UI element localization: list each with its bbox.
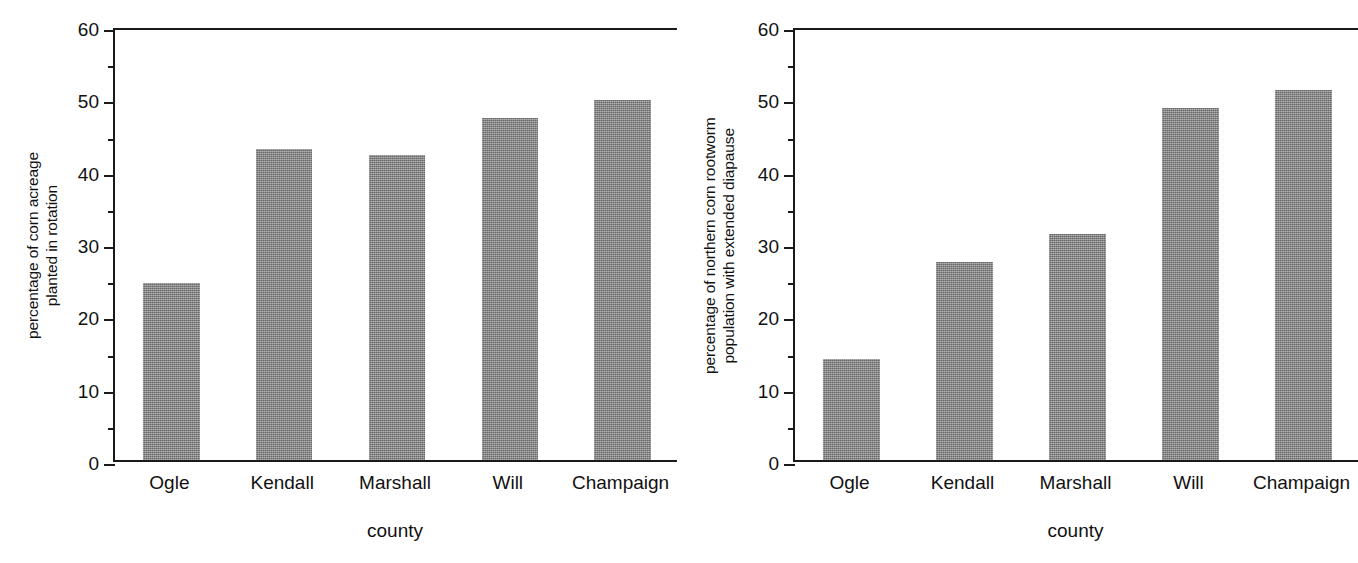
- y-axis-tick-label: 20: [78, 308, 99, 330]
- y-axis-title-left-line2: planted in rotation: [42, 152, 61, 339]
- y-axis-tick-label: 10: [758, 381, 779, 403]
- bar: [1162, 108, 1219, 460]
- y-axis-tick: [784, 175, 795, 177]
- y-axis-title-left-line1: percentage of corn acreage: [23, 152, 42, 339]
- y-axis-tick: [104, 247, 115, 249]
- y-axis-minor-tick: [108, 283, 115, 285]
- y-axis-tick-label: 10: [78, 381, 99, 403]
- y-axis-tick: [104, 464, 115, 466]
- y-axis-tick-label: 30: [78, 236, 99, 258]
- y-axis-minor-tick: [108, 428, 115, 430]
- bar: [482, 118, 538, 460]
- bar: [1049, 234, 1106, 460]
- y-axis-tick: [784, 247, 795, 249]
- chart-panel-right: percentage of northern corn rootworm pop…: [679, 0, 1358, 563]
- y-axis-minor-tick: [788, 139, 795, 141]
- y-axis-title-left: percentage of corn acreage planted in ro…: [23, 152, 61, 339]
- y-axis-tick-label: 50: [758, 91, 779, 113]
- y-axis-tick: [784, 392, 795, 394]
- bar: [936, 262, 993, 460]
- y-axis-tick: [784, 30, 795, 32]
- y-axis-tick-label: 40: [758, 164, 779, 186]
- y-axis-tick-label: 0: [768, 453, 779, 475]
- x-axis-tick-label: Ogle: [149, 472, 189, 494]
- x-axis-tick-label: Marshall: [1040, 472, 1112, 494]
- x-axis-tick-label: Kendall: [250, 472, 313, 494]
- y-axis-tick: [784, 464, 795, 466]
- plot-area-left: 0102030405060: [113, 28, 677, 462]
- y-axis-tick: [104, 175, 115, 177]
- y-axis-tick: [104, 392, 115, 394]
- y-axis-tick-label: 50: [78, 91, 99, 113]
- plot-area-right: 0102030405060: [793, 28, 1358, 462]
- y-axis-tick-label: 30: [758, 236, 779, 258]
- y-axis-minor-tick: [108, 139, 115, 141]
- y-axis-tick-label: 40: [78, 164, 99, 186]
- y-axis-minor-tick: [788, 356, 795, 358]
- y-axis-minor-tick: [108, 66, 115, 68]
- y-axis-minor-tick: [108, 356, 115, 358]
- x-axis-tick-label: Will: [1173, 472, 1204, 494]
- y-axis-tick-label: 20: [758, 308, 779, 330]
- bar: [823, 359, 880, 460]
- x-axis-tick-label: Champaign: [1253, 472, 1350, 494]
- y-axis-tick: [784, 102, 795, 104]
- x-axis-tick-label: Kendall: [931, 472, 994, 494]
- x-axis-tick-label: Champaign: [572, 472, 669, 494]
- y-axis-minor-tick: [788, 211, 795, 213]
- y-axis-tick-label: 60: [758, 19, 779, 41]
- y-axis-tick: [104, 30, 115, 32]
- y-axis-tick-label: 0: [88, 453, 99, 475]
- y-axis-tick: [104, 319, 115, 321]
- y-axis-minor-tick: [108, 211, 115, 213]
- plot-inner-right: 0102030405060: [795, 30, 1358, 460]
- plot-inner-left: 0102030405060: [115, 30, 677, 460]
- y-axis-minor-tick: [788, 283, 795, 285]
- y-axis-title-right: percentage of northern corn rootworm pop…: [700, 117, 738, 374]
- x-axis-tick-label: Will: [492, 472, 523, 494]
- bar: [1275, 90, 1332, 460]
- x-axis-title-left: county: [367, 520, 423, 542]
- bar: [256, 149, 312, 460]
- bar: [143, 283, 199, 460]
- y-axis-tick: [784, 319, 795, 321]
- bar: [594, 100, 650, 460]
- y-axis-tick-label: 60: [78, 19, 99, 41]
- bar: [369, 155, 425, 460]
- figure: percentage of corn acreage planted in ro…: [0, 0, 1358, 563]
- y-axis-title-right-line1: percentage of northern corn rootworm: [700, 117, 719, 374]
- chart-panel-left: percentage of corn acreage planted in ro…: [0, 0, 679, 563]
- y-axis-minor-tick: [788, 428, 795, 430]
- x-axis-tick-label: Ogle: [829, 472, 869, 494]
- x-axis-title-right: county: [1048, 520, 1104, 542]
- x-axis-tick-label: Marshall: [359, 472, 431, 494]
- y-axis-title-right-line2: population with extended diapause: [719, 117, 738, 374]
- y-axis-tick: [104, 102, 115, 104]
- y-axis-minor-tick: [788, 66, 795, 68]
